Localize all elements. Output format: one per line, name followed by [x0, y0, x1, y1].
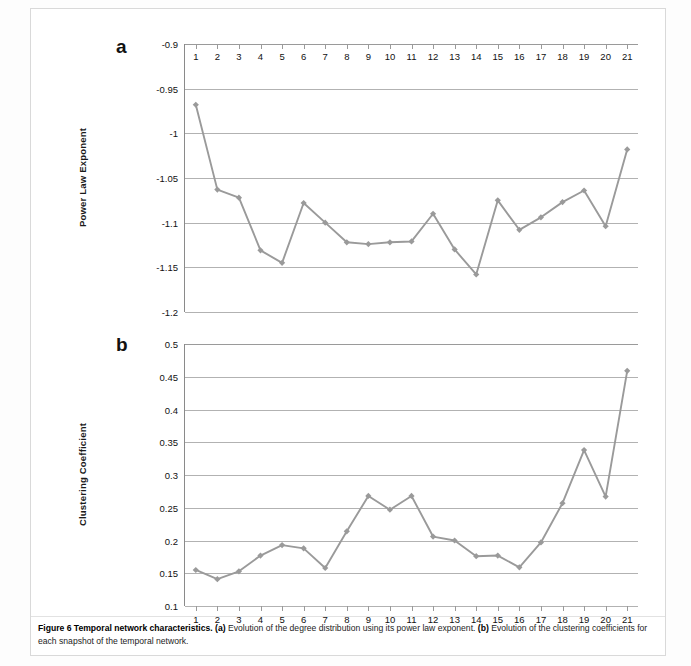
y-tick-label: -1 — [170, 128, 178, 139]
data-point-marker — [365, 241, 371, 247]
x-tick — [519, 606, 520, 611]
x-tick — [606, 606, 607, 611]
x-tick — [261, 606, 262, 611]
panel-a-y-axis-title: Power Law Exponent — [77, 44, 88, 312]
figure-page: a Power Law Exponent -0.9-0.95-1-1.05-1.… — [0, 0, 691, 666]
x-tick — [412, 606, 413, 611]
x-tick — [368, 606, 369, 611]
y-tick-label: 0.2 — [165, 535, 178, 546]
panel-a: a Power Law Exponent -0.9-0.95-1-1.05-1.… — [30, 22, 666, 322]
caption-b-tag: (b) — [478, 623, 489, 633]
x-tick — [282, 606, 283, 611]
data-point-marker — [214, 576, 220, 582]
y-tick-label: 0.35 — [160, 437, 179, 448]
data-point-marker — [387, 239, 393, 245]
data-point-marker — [624, 368, 630, 374]
data-point-marker — [624, 146, 630, 152]
caption-title: Temporal network characteristics. — [74, 623, 213, 633]
data-point-marker — [603, 494, 609, 500]
panel-a-letter: a — [116, 36, 127, 58]
caption-a-tag: (a) — [215, 623, 226, 633]
x-tick — [390, 606, 391, 611]
x-tick — [455, 606, 456, 611]
panel-a-plot-area: -0.9-0.95-1-1.05-1.1-1.15-1.2 1234567891… — [138, 44, 638, 312]
y-tick-label: 0.25 — [160, 502, 179, 513]
figure-body: a Power Law Exponent -0.9-0.95-1-1.05-1.… — [30, 8, 666, 618]
panel-b: b Clustering Coefficient 0.50.450.40.350… — [30, 326, 666, 618]
x-tick — [498, 606, 499, 611]
figure-caption: Figure 6 Temporal network characteristic… — [38, 622, 658, 648]
x-tick — [196, 606, 197, 611]
y-tick-label: 0.5 — [165, 339, 178, 350]
caption-label: Figure 6 — [38, 623, 71, 633]
x-tick — [584, 606, 585, 611]
panel-a-plot: 123456789101112131415161718192021 — [184, 44, 638, 312]
x-tick — [325, 606, 326, 611]
panel-b-series — [185, 344, 638, 606]
y-tick-label: -0.95 — [156, 83, 178, 94]
data-point-marker — [279, 542, 285, 548]
x-tick — [217, 606, 218, 611]
panel-b-y-axis-title: Clustering Coefficient — [77, 344, 88, 606]
x-tick — [627, 606, 628, 611]
panel-a-y-tick-labels: -0.9-0.95-1-1.05-1.1-1.15-1.2 — [138, 44, 182, 312]
y-tick-label: 0.3 — [165, 470, 178, 481]
panel-b-plot: 123456789101112131415161718192021 — [184, 344, 638, 606]
panel-b-plot-area: 0.50.450.40.350.30.250.20.150.1 12345678… — [138, 344, 638, 606]
data-point-marker — [193, 102, 199, 108]
data-point-marker — [214, 187, 220, 193]
x-tick — [347, 606, 348, 611]
data-point-marker — [236, 195, 242, 201]
panel-b-y-tick-labels: 0.50.450.40.350.30.250.20.150.1 — [138, 344, 182, 606]
y-tick-label: -1.15 — [156, 262, 178, 273]
x-tick — [476, 606, 477, 611]
x-tick — [239, 606, 240, 611]
y-tick-label: 0.1 — [165, 601, 178, 612]
series-line — [196, 371, 627, 579]
y-tick-label: -0.9 — [162, 39, 178, 50]
x-tick — [433, 606, 434, 611]
y-tick-label: -1.2 — [162, 307, 178, 318]
data-point-marker — [581, 447, 587, 453]
y-tick-label: 0.45 — [160, 371, 179, 382]
gridline — [185, 312, 638, 313]
panel-b-x-ticks — [185, 606, 638, 611]
x-tick — [563, 606, 564, 611]
panel-b-letter: b — [116, 334, 128, 356]
caption-divider — [31, 616, 665, 617]
y-tick-label: 0.4 — [165, 404, 178, 415]
panel-a-series — [185, 44, 638, 312]
x-tick — [541, 606, 542, 611]
y-tick-label: -1.1 — [162, 217, 178, 228]
caption-a-text: Evolution of the degree distribution usi… — [226, 623, 478, 633]
y-tick-label: -1.05 — [156, 173, 178, 184]
x-tick — [304, 606, 305, 611]
data-point-marker — [193, 567, 199, 573]
y-tick-label: 0.15 — [160, 568, 179, 579]
